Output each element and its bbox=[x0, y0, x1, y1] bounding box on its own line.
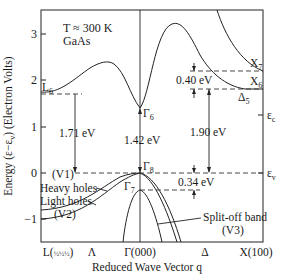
X6-label: X6 bbox=[250, 75, 262, 90]
gamma7-label: Γ7 bbox=[124, 180, 135, 195]
temperature-annotation: T ≈ 300 K bbox=[63, 21, 113, 35]
x-tick-X: X(100) bbox=[239, 246, 272, 259]
heavy-holes-label: Heavy holes bbox=[40, 182, 98, 195]
light-holes-label: Light holes bbox=[40, 195, 93, 208]
L-gap-label: 1.71 eV bbox=[59, 127, 96, 139]
x-tick-gamma: Γ(000) bbox=[124, 246, 156, 259]
X-gap-label: 1.90 eV bbox=[190, 126, 227, 138]
spin-orbit-label: 0.34 eV bbox=[178, 176, 215, 188]
V3-label: (V3) bbox=[222, 224, 244, 237]
y-tick-0: 0 bbox=[31, 166, 37, 180]
material-annotation: GaAs bbox=[63, 34, 91, 48]
y-axis-tick-labels: 3 2 1 0 −1 bbox=[24, 27, 37, 226]
x-tick-delta: Δ bbox=[201, 246, 208, 258]
y-tick-minus1: −1 bbox=[24, 212, 37, 226]
delta5-label: Δ5 bbox=[238, 91, 249, 106]
X7-label: X7 bbox=[250, 57, 262, 72]
gamma6-label: Γ6 bbox=[143, 107, 154, 122]
X-split-label: 0.40 eV bbox=[176, 74, 213, 86]
split-off-band bbox=[123, 190, 162, 242]
x-tick-L: L(½½½) bbox=[43, 246, 74, 259]
y-tick-3: 3 bbox=[31, 27, 37, 41]
V2-label: (V2) bbox=[54, 208, 76, 221]
split-off-label: Split-off band bbox=[203, 211, 267, 224]
y-tick-2: 2 bbox=[31, 73, 37, 87]
x-tick-lambda: Λ bbox=[88, 246, 97, 258]
V1-label: (V1) bbox=[52, 168, 74, 181]
epsilon-c-label: εc bbox=[267, 109, 276, 124]
y-tick-1: 1 bbox=[31, 120, 37, 134]
epsilon-v-label: εv bbox=[267, 167, 276, 182]
gamma-gap-label: 1.42 eV bbox=[124, 134, 161, 146]
y-axis-label: Energy (ε−εv) (Electron Volts) bbox=[2, 56, 17, 195]
x-axis-label: Reduced Wave Vector q bbox=[92, 261, 202, 274]
band-structure-diagram: 3 2 1 0 −1 Energy (ε−εv) (Electron Volts… bbox=[0, 0, 283, 280]
